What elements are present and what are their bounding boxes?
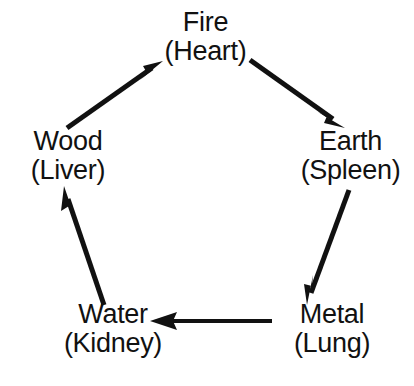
node-earth-organ: (Spleen): [288, 156, 413, 185]
node-label-fire: Fire (Heart): [133, 8, 278, 66]
node-metal-organ: (Lung): [272, 329, 392, 358]
node-label-metal: Metal (Lung): [272, 300, 392, 358]
arrow-fire-to-earth-shaft: [250, 60, 333, 119]
node-water-element: Water: [48, 300, 178, 329]
arrow-wood-to-fire: [67, 61, 163, 128]
five-elements-cycle-diagram: Fire (Heart) Earth (Spleen) Metal (Lung)…: [0, 0, 414, 386]
arrow-water-to-wood-shaft: [68, 199, 104, 305]
arrow-wood-to-fire-shaft: [67, 68, 152, 128]
arrow-water-to-wood: [61, 186, 104, 305]
node-water-organ: (Kidney): [48, 329, 178, 358]
arrow-fire-to-earth: [250, 60, 345, 128]
node-wood-element: Wood: [12, 127, 124, 156]
arrow-earth-to-metal-shaft: [311, 190, 349, 293]
arrow-water-to-wood-head: [61, 186, 74, 215]
node-wood-organ: (Liver): [12, 156, 124, 185]
node-earth-element: Earth: [288, 127, 413, 156]
node-metal-element: Metal: [272, 300, 392, 329]
node-fire-organ: (Heart): [133, 37, 278, 66]
node-fire-element: Fire: [133, 8, 278, 37]
arrow-earth-to-metal: [304, 190, 349, 305]
node-label-water: Water (Kidney): [48, 300, 178, 358]
node-label-earth: Earth (Spleen): [288, 127, 413, 185]
node-label-wood: Wood (Liver): [12, 127, 124, 185]
